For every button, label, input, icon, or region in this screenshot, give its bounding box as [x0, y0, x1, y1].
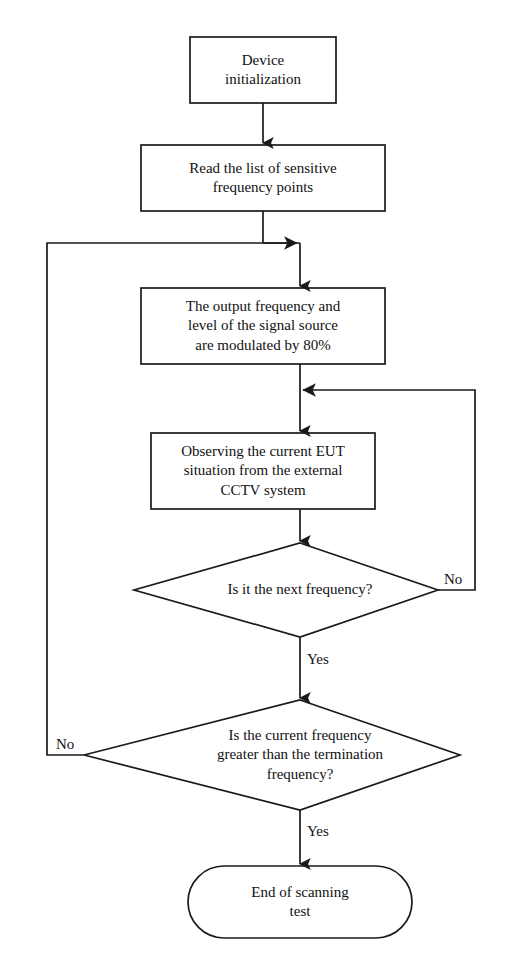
node-shape-observe-eut-cctv: [151, 433, 375, 509]
flowchart-connectors: [0, 0, 520, 974]
node-shape-modulate-signal-source: [141, 288, 385, 364]
node-shape-read-sensitive-list: [141, 145, 385, 211]
node-shape-device-initialization: [190, 37, 336, 103]
edge-label-termination-no: No: [56, 737, 74, 752]
flowchart-diagram: Device initialization Read the list of s…: [0, 0, 520, 974]
edge-label-next-frequency-yes: Yes: [307, 652, 329, 667]
node-shape-is-next-frequency: [134, 543, 438, 637]
edge-label-next-frequency-no: No: [444, 572, 462, 587]
edge-label-termination-yes: Yes: [307, 824, 329, 839]
node-shape-is-greater-than-termination: [84, 700, 460, 810]
node-shape-end-of-scanning-test: [188, 866, 412, 938]
